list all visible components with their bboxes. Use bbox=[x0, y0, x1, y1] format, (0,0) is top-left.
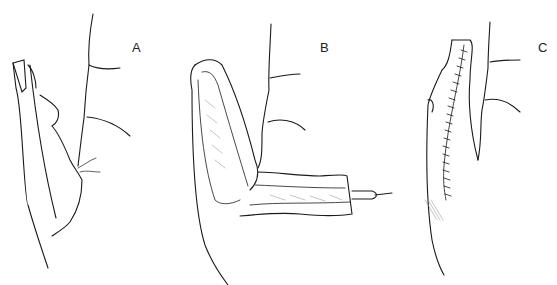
surgical-illustration bbox=[0, 0, 557, 285]
panel-label-b: B bbox=[320, 40, 329, 55]
panel-label-c: C bbox=[538, 40, 547, 55]
suture-line bbox=[443, 45, 467, 200]
panel-label-a: A bbox=[132, 40, 141, 55]
hand-b-drawing bbox=[191, 24, 392, 285]
hand-c-drawing bbox=[425, 22, 520, 275]
hand-a-drawing bbox=[13, 14, 130, 268]
